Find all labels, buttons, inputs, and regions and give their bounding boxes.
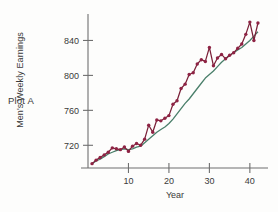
data-point [90,162,93,165]
y-tick-label: 800 [64,71,79,81]
data-point [119,148,122,151]
data-point [102,153,105,156]
axes-layer [81,14,268,168]
data-point [200,58,203,61]
x-tick-label: 10 [123,176,133,186]
data-point [196,62,199,65]
data-point [123,145,126,148]
data-point [204,60,207,63]
data-point [256,21,259,24]
x-tick-layer: 10203040 [123,163,254,186]
earnings-path [92,22,258,164]
x-tick-label: 30 [204,176,214,186]
data-point [167,114,170,117]
y-tick-layer: 720760800840 [64,36,93,151]
y-tick-label: 760 [64,106,79,116]
data-point [220,53,223,56]
data-point [163,117,166,120]
data-point [212,64,215,67]
data-point [107,151,110,154]
data-point [115,147,118,150]
y-tick-label: 840 [64,36,79,46]
earnings-data-points [90,20,259,165]
data-point [216,56,219,59]
data-point [155,118,158,121]
data-point [143,137,146,140]
x-tick-label: 40 [245,176,255,186]
data-point [94,158,97,161]
data-point [183,82,186,85]
chart-figure: Plot A Men's Weekly Earnings Year 720760… [0,0,278,212]
data-point [240,42,243,45]
data-point [151,130,154,133]
data-point [224,57,227,60]
data-point [252,39,255,42]
data-point [139,144,142,147]
data-point [228,54,231,57]
y-tick-label: 720 [64,141,79,151]
data-point [175,99,178,102]
data-point [208,46,211,49]
earnings-series-line [92,22,258,164]
plot-canvas: 720760800840 10203040 [0,0,278,212]
data-point [179,87,182,90]
data-point [131,144,134,147]
data-point [98,156,101,159]
data-point [135,142,138,145]
data-point [147,123,150,126]
data-point [192,71,195,74]
data-point [111,146,114,149]
data-point [232,51,235,54]
data-point [236,47,239,50]
x-tick-label: 20 [164,176,174,186]
data-point [187,73,190,76]
data-point [248,20,251,23]
data-point [159,119,162,122]
data-point [171,103,174,106]
data-point [127,150,130,153]
data-point [244,33,247,36]
